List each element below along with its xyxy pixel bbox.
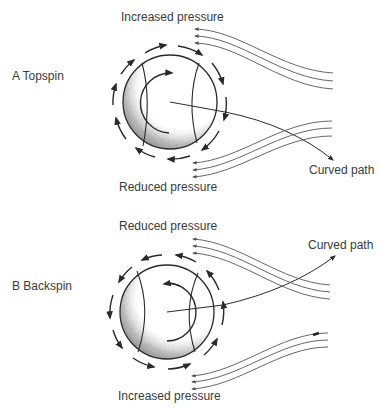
topspin-ball-group: [113, 29, 333, 177]
backspin-airflow-top: [193, 239, 330, 299]
spin-diagram: [0, 0, 380, 408]
topspin-airflow-bottom: [193, 121, 332, 177]
topspin-airflow-top: [195, 29, 333, 89]
backspin-airflow-bottom: [192, 333, 328, 389]
backspin-ball-group: [110, 239, 335, 389]
